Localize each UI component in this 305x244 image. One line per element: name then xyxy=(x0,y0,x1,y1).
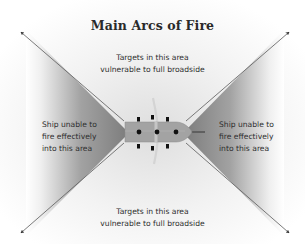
label-dead-zone-stern: Ship unable to fire effectively into thi… xyxy=(42,119,97,155)
label-line: Ship unable to xyxy=(219,119,274,131)
mast-icon xyxy=(137,130,142,135)
mast-icon xyxy=(174,130,179,135)
arcs-of-fire-diagram: Main Arcs of Fire Targets in this area v… xyxy=(0,0,305,244)
label-line: Targets in this area xyxy=(0,52,305,64)
cannon-icon xyxy=(166,117,169,122)
cannon-icon xyxy=(151,115,154,120)
label-broadside-top: Targets in this area vulnerable to full … xyxy=(0,52,305,76)
label-line: vulnerable to full broadside xyxy=(0,218,305,230)
mast-icon xyxy=(155,130,160,135)
label-line: Targets in this area xyxy=(0,206,305,218)
label-dead-zone-bow: Ship unable to fire effectively into thi… xyxy=(219,119,274,155)
diagram-title: Main Arcs of Fire xyxy=(0,18,305,33)
cannon-icon xyxy=(151,146,154,151)
cannon-icon xyxy=(137,144,140,149)
label-broadside-bottom: Targets in this area vulnerable to full … xyxy=(0,206,305,230)
label-line: vulnerable to full broadside xyxy=(0,64,305,76)
label-line: into this area xyxy=(219,143,274,155)
label-line: fire effectively xyxy=(42,131,97,143)
label-line: into this area xyxy=(42,143,97,155)
label-line: fire effectively xyxy=(219,131,274,143)
cannon-icon xyxy=(137,117,140,122)
label-line: Ship unable to xyxy=(42,119,97,131)
cannon-icon xyxy=(166,144,169,149)
